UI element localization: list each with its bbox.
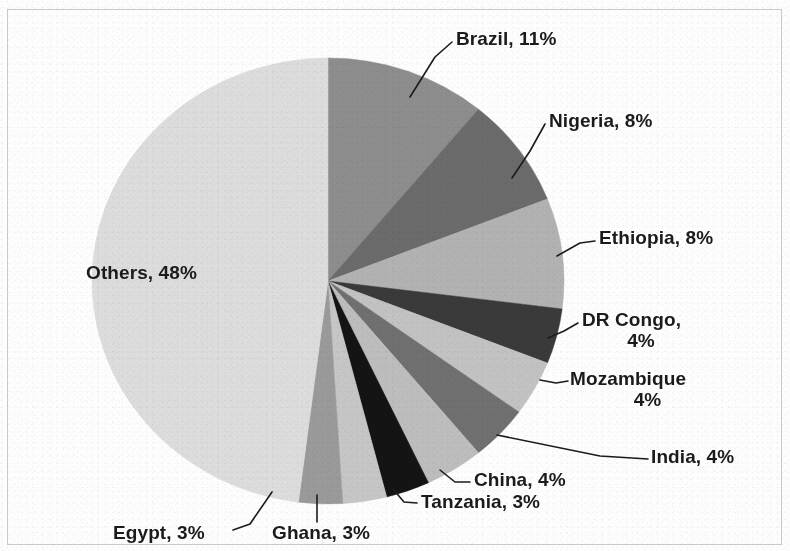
slice-label-nigeria: Nigeria, 8% bbox=[549, 110, 653, 131]
leader-line-mozambique bbox=[540, 380, 568, 383]
slice-label-mozambique: Mozambique 4% bbox=[570, 368, 725, 411]
slice-label-ethiopia: Ethiopia, 8% bbox=[599, 227, 713, 248]
leader-line-ethiopia bbox=[557, 241, 595, 256]
slice-label-mozambique-pct: 4% bbox=[570, 389, 725, 410]
leader-line-egypt bbox=[233, 492, 272, 530]
slice-label-tanzania: Tanzania, 3% bbox=[421, 491, 540, 512]
slice-label-egypt: Egypt, 3% bbox=[113, 522, 205, 543]
slice-label-dr-congo-pct: 4% bbox=[582, 330, 700, 351]
slice-label-brazil: Brazil, 11% bbox=[456, 28, 556, 49]
slice-label-dr-congo-name: DR Congo, bbox=[582, 309, 681, 330]
slice-label-others: Others, 48% bbox=[86, 262, 197, 283]
slice-label-china: China, 4% bbox=[474, 469, 566, 490]
leader-line-india bbox=[497, 435, 648, 459]
slice-label-mozambique-name: Mozambique bbox=[570, 368, 686, 389]
slice-label-ghana: Ghana, 3% bbox=[272, 522, 370, 543]
slice-label-dr-congo: DR Congo, 4% bbox=[582, 309, 700, 352]
chart-canvas: Brazil, 11% Nigeria, 8% Ethiopia, 8% DR … bbox=[0, 0, 790, 551]
slice-label-india: India, 4% bbox=[651, 446, 734, 467]
